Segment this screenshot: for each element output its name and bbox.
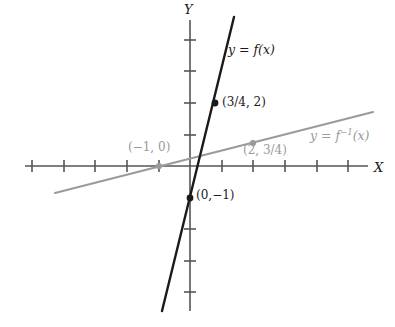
point-label-2-three-quarters: (2, 3/4) [243, 143, 287, 157]
graph-canvas [0, 0, 395, 327]
inverse-label-equals: = [317, 128, 335, 143]
function-curve-label: y = f(x) [228, 42, 275, 57]
point-label-three-quarters-2: (3/4, 2) [222, 95, 266, 109]
function-inverse-graph-figure: X Y y = f(x) y = f−1(x) (3/4, 2) (0,−1) … [0, 0, 395, 327]
point-marker-0-neg1 [187, 195, 194, 202]
inverse-label-arg: (x) [353, 128, 370, 143]
point-label-neg1-0: (−1, 0) [128, 140, 170, 154]
point-label-0-neg1: (0,−1) [196, 188, 235, 202]
point-marker-three-quarters-2 [212, 100, 219, 107]
x-axis-label: X [374, 160, 383, 175]
point-marker-neg1-0 [156, 163, 162, 169]
inverse-label-lhs: y [310, 128, 317, 143]
inverse-label-exponent: −1 [340, 127, 353, 137]
inverse-function-line [55, 112, 373, 193]
inverse-function-curve-label: y = f−1(x) [310, 128, 369, 143]
y-axis-label: Y [184, 2, 193, 17]
